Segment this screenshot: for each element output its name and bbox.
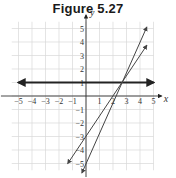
x-tick-label: 1	[98, 97, 102, 106]
x-tick-label: 4	[138, 97, 142, 106]
y-tick-label: 2	[80, 65, 84, 74]
y-axis-label: y	[89, 7, 95, 18]
x-tick-label: −2	[55, 97, 64, 106]
x-tick-label: 5	[152, 97, 156, 106]
series-line-2	[68, 45, 147, 163]
y-tick-label: −2	[75, 119, 84, 128]
x-axis-label: x	[163, 93, 169, 104]
tick-labels: −5−4−3−2−11234554321−1−2−3−4−5	[14, 25, 155, 169]
y-tick-label: −3	[75, 133, 84, 142]
coordinate-plane: xy −5−4−3−2−11234554321−1−2−3−4−5	[0, 0, 176, 178]
x-tick-label: −4	[28, 97, 37, 106]
x-tick-label: −3	[41, 97, 50, 106]
y-tick-label: 3	[80, 52, 84, 61]
y-tick-label: 4	[80, 38, 84, 47]
axes: xy	[1, 7, 169, 177]
y-tick-label: −5	[75, 160, 84, 169]
y-tick-label: 5	[80, 25, 84, 34]
y-tick-label: −1	[75, 106, 84, 115]
x-tick-label: 3	[125, 97, 129, 106]
x-tick-label: −5	[14, 97, 23, 106]
